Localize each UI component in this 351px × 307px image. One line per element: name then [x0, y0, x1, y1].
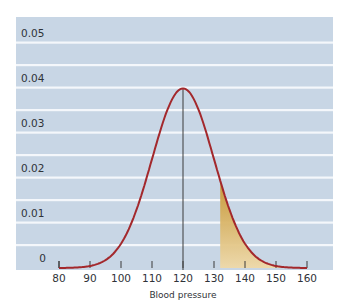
x-tick-label: 160	[297, 272, 317, 284]
y-tick-label: 0.01	[21, 207, 44, 219]
y-tick-label: 0.03	[21, 117, 44, 129]
y-tick-label: 0.05	[21, 27, 44, 39]
y-tick-label: 0	[39, 252, 46, 264]
gridline	[16, 154, 333, 156]
gridline	[16, 87, 333, 89]
gridline	[16, 64, 333, 66]
plot-panel	[16, 17, 333, 270]
x-tick-label: 150	[266, 272, 286, 284]
x-tick-label: 120	[173, 272, 193, 284]
x-tick-label: 110	[142, 272, 162, 284]
x-tick-label: 90	[83, 272, 96, 284]
gridline	[16, 199, 333, 201]
x-tick-label: 140	[235, 272, 255, 284]
y-tick-label: 0.04	[21, 72, 45, 84]
gridline	[16, 109, 333, 111]
gridline	[16, 42, 333, 44]
normal-distribution-chart: 00.010.020.030.040.05 809010011012013014…	[0, 0, 351, 307]
y-tick-label: 0.02	[21, 162, 44, 174]
x-axis-labels: 8090100110120130140150160	[52, 272, 317, 284]
x-tick-label: 100	[111, 272, 131, 284]
x-tick-label: 80	[52, 272, 65, 284]
gridline	[16, 132, 333, 134]
gridline	[16, 177, 333, 179]
gridline	[16, 244, 333, 246]
x-axis-title: Blood pressure	[149, 290, 217, 300]
gridline	[16, 222, 333, 224]
x-tick-label: 130	[204, 272, 224, 284]
